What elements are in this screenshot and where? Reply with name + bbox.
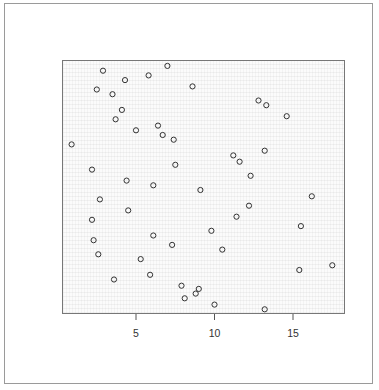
data-point xyxy=(237,159,242,164)
x-tick-label-5: 5 xyxy=(133,327,139,339)
data-point xyxy=(110,92,115,97)
data-point xyxy=(173,162,178,167)
x-axis: 5 10 15 xyxy=(133,314,299,339)
data-point xyxy=(155,123,160,128)
data-point xyxy=(126,208,131,213)
data-point xyxy=(96,252,101,257)
data-point xyxy=(148,272,153,277)
data-point xyxy=(190,84,195,89)
data-point xyxy=(124,178,129,183)
x-tick-label-10: 10 xyxy=(209,327,221,339)
data-point xyxy=(179,283,184,288)
data-point xyxy=(262,148,267,153)
data-point xyxy=(231,153,236,158)
data-point xyxy=(297,267,302,272)
data-point xyxy=(100,68,105,73)
data-point xyxy=(151,183,156,188)
data-point xyxy=(122,78,127,83)
data-point xyxy=(91,238,96,243)
data-point xyxy=(170,242,175,247)
data-point xyxy=(284,114,289,119)
scatter-chart: 5 10 15 xyxy=(0,0,379,390)
data-point xyxy=(262,307,267,312)
data-point xyxy=(160,132,165,137)
data-point xyxy=(246,203,251,208)
data-point xyxy=(330,263,335,268)
data-point xyxy=(212,302,217,307)
data-point xyxy=(97,197,102,202)
data-point xyxy=(89,217,94,222)
data-point xyxy=(248,173,253,178)
data-point xyxy=(111,277,116,282)
data-point xyxy=(133,128,138,133)
data-point xyxy=(151,233,156,238)
data-point xyxy=(309,194,314,199)
data-point xyxy=(220,247,225,252)
data-point xyxy=(69,142,74,147)
data-point xyxy=(234,214,239,219)
data-point xyxy=(113,117,118,122)
data-point xyxy=(198,187,203,192)
x-tick-label-15: 15 xyxy=(287,327,299,339)
data-point xyxy=(165,63,170,68)
data-point xyxy=(94,87,99,92)
data-point xyxy=(196,286,201,291)
data-point xyxy=(89,167,94,172)
data-point xyxy=(138,257,143,262)
data-points xyxy=(69,63,335,312)
data-point xyxy=(209,228,214,233)
data-point xyxy=(119,107,124,112)
data-point xyxy=(264,103,269,108)
data-point xyxy=(171,137,176,142)
data-point xyxy=(146,73,151,78)
data-point xyxy=(193,291,198,296)
data-point xyxy=(298,224,303,229)
data-point xyxy=(182,296,187,301)
data-point xyxy=(256,98,261,103)
